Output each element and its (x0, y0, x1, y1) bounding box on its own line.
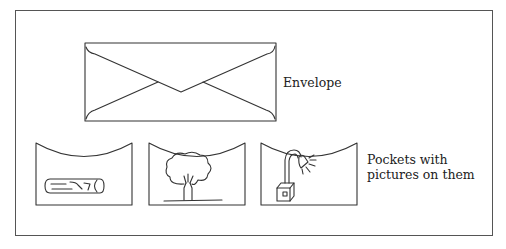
envelope-label: Envelope (283, 75, 342, 90)
pocket-1 (36, 143, 132, 205)
pockets-label: Pockets with pictures on them (367, 152, 477, 182)
envelope-icon (85, 43, 276, 121)
pocket-3 (261, 143, 357, 205)
lamp-icon (277, 150, 316, 201)
log-icon (45, 179, 104, 193)
diagram-canvas (0, 0, 506, 249)
pocket-2 (149, 143, 245, 205)
tree-icon (164, 152, 222, 201)
